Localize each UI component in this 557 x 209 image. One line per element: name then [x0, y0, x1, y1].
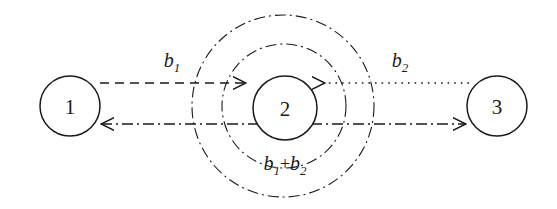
edge-label-b1: b1 [164, 49, 181, 75]
combined-label-sub2: 2 [300, 163, 307, 178]
edge-label-b2-sub: 2 [402, 60, 409, 75]
diagram-root: 1 2 3 b1 b2 b1+b2 [0, 0, 557, 209]
node-3-label: 3 [492, 95, 503, 119]
edge-label-b2-base: b [392, 49, 402, 71]
combined-label-base2: b [290, 152, 300, 174]
edge-label-b1-base: b [164, 49, 174, 71]
combined-label-operator: + [280, 154, 290, 174]
edge-label-b2: b2 [392, 49, 409, 75]
node-2-label: 2 [280, 97, 291, 121]
diagram-canvas: 1 2 3 b1 b2 b1+b2 [0, 0, 557, 209]
node-1-label: 1 [65, 95, 76, 119]
edge-label-b1-plus-b2: b1+b2 [263, 152, 307, 178]
edge-label-b1-sub: 1 [174, 60, 181, 75]
combined-label-base1: b [263, 152, 273, 174]
